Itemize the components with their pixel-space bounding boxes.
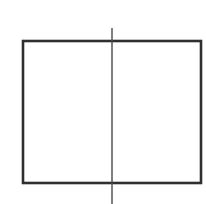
diagram-canvas — [0, 0, 206, 204]
